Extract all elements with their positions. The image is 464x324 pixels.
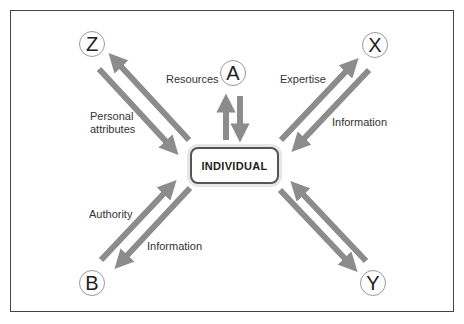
individual-box: INDIVIDUAL — [190, 147, 279, 184]
node-a: A — [220, 60, 246, 86]
label-personal: Personal — [90, 110, 133, 123]
label-authority: Authority — [89, 208, 132, 221]
label-resources: Resources — [166, 73, 219, 86]
label-information-x: Information — [332, 116, 387, 129]
node-x: X — [362, 32, 388, 58]
arrow-y-to-individual — [297, 188, 366, 261]
node-b: B — [79, 270, 105, 296]
node-z: Z — [79, 31, 105, 57]
label-information-b: Information — [147, 240, 202, 253]
arrow-individual-to-y — [280, 190, 351, 265]
node-y: Y — [360, 270, 386, 296]
label-expertise: Expertise — [280, 73, 326, 86]
label-attributes: attributes — [90, 123, 135, 136]
